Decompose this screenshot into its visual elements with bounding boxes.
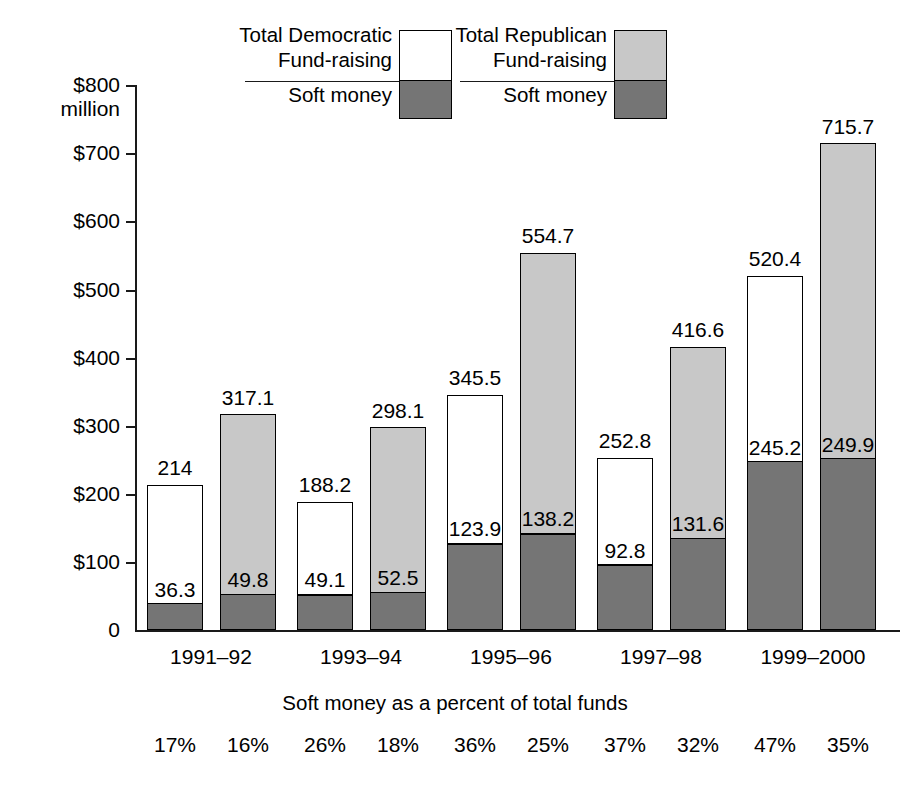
y-label-0: 0 (20, 618, 120, 642)
bar-value-soft-republican-1995-96: 138.2 (500, 507, 596, 531)
bar-democratic-1991-92[interactable] (147, 485, 203, 631)
bar-segment-soft (371, 593, 425, 629)
y-tick-600 (126, 221, 137, 223)
y-tick-400 (126, 358, 137, 360)
bar-value-democratic-1997-98: 252.8 (577, 429, 673, 453)
chart-caption: Soft money as a percent of total funds (0, 691, 910, 715)
y-tick-100 (126, 562, 137, 564)
bar-segment-soft (521, 535, 575, 629)
bar-segment-soft (821, 459, 875, 629)
bar-segment-divider (448, 543, 502, 545)
bar-segment-soft (748, 462, 802, 629)
bar-value-democratic-1999-2000: 520.4 (727, 247, 823, 271)
bar-segment-divider (298, 594, 352, 596)
bar-democratic-1993-94[interactable] (297, 502, 353, 630)
bar-value-democratic-1993-94: 188.2 (277, 473, 373, 497)
bar-segment-soft (448, 545, 502, 629)
y-label-200: $200 (20, 482, 120, 506)
bar-segment-soft (221, 595, 275, 629)
y-label-600: $600 (20, 209, 120, 233)
y-label-unit: million (20, 97, 120, 121)
bar-republican-1995-96[interactable] (520, 253, 576, 630)
x-label-1995-96: 1995–96 (451, 645, 571, 669)
x-label-1999-2000: 1999–2000 (748, 645, 878, 669)
bar-segment-divider (821, 458, 875, 460)
bar-segment-divider (671, 538, 725, 540)
y-label-300: $300 (20, 414, 120, 438)
bar-republican-1999-2000[interactable] (820, 143, 876, 630)
bar-value-soft-democratic-1997-98: 92.8 (577, 539, 673, 563)
bar-segment-soft (598, 566, 652, 629)
bar-segment-soft (148, 604, 202, 629)
bar-segment-soft (671, 539, 725, 629)
x-label-1991-92: 1991–92 (151, 645, 271, 669)
y-label-100: $100 (20, 550, 120, 574)
bar-value-soft-republican-1999-2000: 249.9 (800, 433, 896, 457)
bar-segment-divider (148, 603, 202, 605)
bar-value-soft-republican-1993-94: 52.5 (350, 566, 446, 590)
bar-segment-divider (598, 564, 652, 566)
y-label-700: $700 (20, 141, 120, 165)
bar-value-republican-1991-92: 317.1 (200, 386, 296, 410)
bar-segment-divider (521, 533, 575, 535)
x-label-1993-94: 1993–94 (301, 645, 421, 669)
y-tick-500 (126, 290, 137, 292)
y-label-400: $400 (20, 346, 120, 370)
bar-value-republican-1997-98: 416.6 (650, 318, 746, 342)
percent-republican-1999-2000: 35% (800, 733, 896, 757)
bar-republican-1991-92[interactable] (220, 414, 276, 630)
bar-segment-divider (748, 461, 802, 463)
y-tick-800 (126, 85, 137, 87)
bar-segment-divider (371, 592, 425, 594)
bar-value-republican-1999-2000: 715.7 (800, 115, 896, 139)
bar-value-republican-1993-94: 298.1 (350, 399, 446, 423)
bar-value-democratic-1995-96: 345.5 (427, 366, 523, 390)
bar-democratic-1995-96[interactable] (447, 395, 503, 630)
bar-republican-1997-98[interactable] (670, 347, 726, 630)
bar-segment-divider (221, 594, 275, 596)
y-label-800: $800 (20, 73, 120, 97)
bar-value-democratic-1991-92: 214 (127, 456, 223, 480)
y-tick-300 (126, 426, 137, 428)
y-tick-200 (126, 494, 137, 496)
x-label-1997-98: 1997–98 (601, 645, 721, 669)
bar-value-soft-republican-1997-98: 131.6 (650, 512, 746, 536)
bar-value-republican-1995-96: 554.7 (500, 224, 596, 248)
y-label-500: $500 (20, 278, 120, 302)
bar-republican-1993-94[interactable] (370, 427, 426, 630)
x-axis-line (135, 630, 900, 632)
bar-segment-soft (298, 596, 352, 629)
bar-chart: $800 million $700 $600 $500 $400 $300 $2… (0, 0, 910, 791)
y-tick-700 (126, 153, 137, 155)
